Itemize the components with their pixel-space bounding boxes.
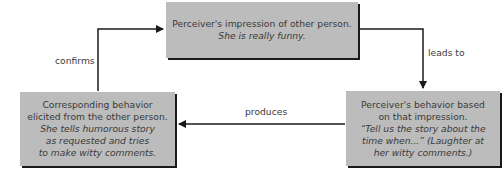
edge-label-produces: produces [245,106,287,117]
node-text: Corresponding behavior [42,99,152,111]
node-example: time when...” (Laughter at [362,135,484,147]
node-perceiver-behavior: Perceiver's behavior based on that impre… [346,91,500,166]
edge-label-leads-to: leads to [428,47,465,58]
node-text: Perceiver's behavior based [361,99,485,111]
node-example: She is really funny. [218,30,305,42]
node-impression: Perceiver's impression of other person. … [166,2,358,58]
node-text: elicited from the other person. [27,111,167,123]
node-example: She tells humorous story [40,123,155,135]
node-example: “Tell us the story about the [360,123,485,135]
node-corresponding-behavior: Corresponding behavior elicited from the… [20,92,175,166]
arrow-leads-to [359,29,423,88]
node-example: to make witty comments. [39,147,157,159]
arrow-confirms [98,29,163,91]
node-example: her witty comments.) [374,147,473,159]
node-text: Perceiver's impression of other person. [172,18,351,30]
node-example: as requested and tries [46,135,149,147]
edge-label-confirms: confirms [55,55,95,66]
node-text: on that impression. [379,111,468,123]
